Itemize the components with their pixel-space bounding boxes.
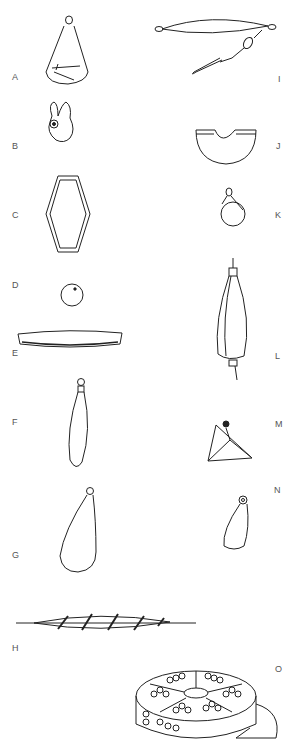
sinker-d-ball xyxy=(61,284,83,306)
sinker-g-pear xyxy=(60,488,96,573)
illustration xyxy=(0,0,287,745)
sinker-h-spiral xyxy=(16,614,196,630)
sinker-f-pear-long xyxy=(69,379,88,467)
sinker-j-half-moon xyxy=(196,130,256,164)
sinker-c-hexagon xyxy=(46,176,90,252)
split-shot-dispenser-o xyxy=(136,671,277,738)
sinker-m-pyramid xyxy=(208,421,252,461)
sinker-a-cone xyxy=(46,16,88,84)
shot-pellets xyxy=(143,673,241,731)
sinker-b-split-shot xyxy=(49,102,73,142)
sinker-i-jig xyxy=(155,20,276,74)
sinker-e-barrel xyxy=(18,331,122,347)
sinker-n-small-pear xyxy=(224,496,248,549)
sinker-k-round-loop xyxy=(221,188,245,226)
sinker-l-teardrop xyxy=(217,258,247,380)
